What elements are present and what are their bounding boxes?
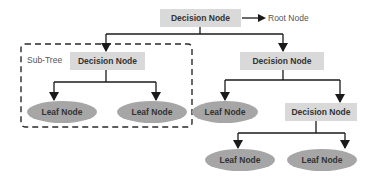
right-leaf-node: Leaf Node — [192, 101, 258, 123]
right-leaf-node-label: Leaf Node — [204, 107, 245, 117]
root-node-annotation: Root Node — [268, 13, 309, 23]
left-decision-node: Decision Node — [70, 52, 145, 70]
subtree-label: Sub-Tree — [27, 55, 62, 65]
connectors — [54, 18, 345, 148]
right-decision-node-label: Decision Node — [252, 56, 311, 66]
left-leaf-node-2-label: Leaf Node — [131, 107, 172, 117]
left-decision-node-label: Decision Node — [78, 56, 137, 66]
diagram-svg: Decision Node Root Node Sub-Tree Decisio… — [0, 0, 372, 180]
right-sub-decision-node-label: Decision Node — [291, 107, 350, 117]
bottom-leaf-node-1: Leaf Node — [205, 149, 275, 171]
right-decision-node: Decision Node — [240, 52, 324, 70]
root-decision-node-label: Decision Node — [171, 13, 230, 23]
decision-tree-diagram: Decision Node Root Node Sub-Tree Decisio… — [0, 0, 372, 180]
left-leaf-node-2: Leaf Node — [117, 101, 187, 123]
root-decision-node: Decision Node — [160, 9, 241, 27]
bottom-leaf-node-2: Leaf Node — [287, 149, 357, 171]
right-sub-decision-node: Decision Node — [285, 103, 357, 121]
left-leaf-node-1-label: Leaf Node — [41, 107, 82, 117]
bottom-leaf-node-2-label: Leaf Node — [301, 155, 342, 165]
bottom-leaf-node-1-label: Leaf Node — [219, 155, 260, 165]
left-leaf-node-1: Leaf Node — [27, 101, 97, 123]
